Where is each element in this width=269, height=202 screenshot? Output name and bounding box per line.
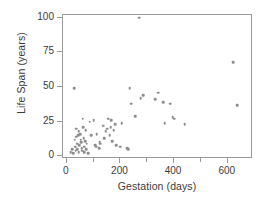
x-axis-tick	[66, 158, 67, 163]
x-axis-tick	[119, 158, 120, 163]
data-points-layer	[63, 15, 251, 157]
data-point	[112, 129, 115, 132]
data-point	[173, 118, 176, 121]
data-point	[77, 151, 80, 154]
data-point	[120, 122, 123, 125]
x-axis-tick-label: 0	[46, 165, 86, 176]
data-point	[114, 123, 117, 126]
data-point	[127, 148, 130, 151]
data-point	[232, 61, 235, 64]
data-point	[162, 101, 165, 104]
y-axis-tick-label: 50	[14, 81, 54, 91]
data-point	[87, 152, 90, 155]
x-axis-tick-label: 600	[207, 165, 247, 176]
y-axis-tick-label: 0	[14, 150, 54, 160]
data-point	[184, 123, 187, 126]
data-point	[169, 102, 172, 105]
data-point	[236, 104, 239, 107]
data-point	[103, 137, 106, 140]
x-axis-minor-tick	[93, 158, 94, 162]
data-point	[74, 138, 77, 141]
data-point	[109, 126, 112, 129]
data-point	[86, 142, 89, 145]
data-point	[106, 127, 109, 130]
data-point	[92, 119, 95, 122]
data-point	[108, 134, 111, 137]
x-axis-minor-tick	[146, 158, 147, 162]
data-point	[98, 147, 101, 150]
data-point	[134, 115, 137, 118]
data-point	[83, 151, 86, 154]
data-point	[142, 94, 145, 97]
x-axis-tick	[173, 158, 174, 163]
data-point	[129, 87, 132, 90]
x-axis-tick-label: 400	[153, 165, 193, 176]
data-point	[90, 134, 93, 137]
y-axis-tick-label: 75	[14, 46, 54, 56]
data-point	[73, 87, 76, 90]
y-axis-label: Life Span (years)	[14, 0, 28, 148]
data-point	[80, 141, 83, 144]
data-point	[163, 122, 166, 125]
x-axis-minor-tick	[200, 158, 201, 162]
y-axis-tick-label: 100	[14, 12, 54, 22]
data-point	[71, 148, 74, 151]
data-point	[157, 91, 160, 94]
data-point	[96, 133, 99, 136]
data-point	[119, 145, 122, 148]
data-point	[99, 142, 102, 145]
data-point	[79, 133, 82, 136]
data-point	[111, 140, 114, 143]
data-point	[154, 98, 157, 101]
plot-area	[62, 14, 252, 158]
data-point	[102, 124, 105, 127]
data-point	[115, 144, 118, 147]
x-axis-label: Gestation (days)	[62, 180, 252, 192]
data-point	[130, 102, 133, 105]
data-point	[85, 148, 88, 151]
data-point	[82, 118, 85, 121]
data-point	[84, 129, 87, 132]
data-point	[139, 97, 142, 100]
data-point	[138, 16, 141, 19]
y-axis-tick-label: 25	[14, 116, 54, 126]
x-axis-tick-label: 200	[99, 165, 139, 176]
data-point	[88, 120, 91, 123]
data-point	[104, 130, 107, 133]
data-point	[110, 119, 113, 122]
x-axis-tick	[227, 158, 228, 163]
scatter-chart: Life Span (years) 0255075100 0200400600 …	[0, 0, 269, 202]
data-point	[72, 152, 75, 155]
